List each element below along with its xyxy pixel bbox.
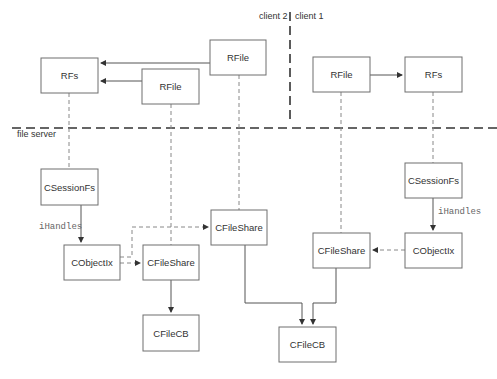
node-rfs-client1: RFs [405, 57, 462, 92]
architecture-diagram: RFs RFile RFile RFile RFs CSessionFs COb… [0, 0, 497, 379]
svg-text:CObjectIx: CObjectIx [413, 245, 455, 256]
node-rfs-left: RFs [41, 58, 98, 93]
svg-text:CFileCB: CFileCB [290, 339, 325, 350]
label-ihandles-left: iHandles [39, 222, 82, 232]
node-cobjectix-left: CObjectIx [64, 245, 120, 280]
svg-text:CSessionFs: CSessionFs [44, 182, 95, 193]
svg-text:CFileShare: CFileShare [215, 222, 263, 233]
node-cfileshare-midleft: CFileShare [143, 245, 199, 280]
node-csessionfs-left: CSessionFs [41, 169, 98, 205]
svg-text:CObjectIx: CObjectIx [71, 257, 113, 268]
label-file-server: file server [17, 129, 56, 139]
svg-text:CSessionFs: CSessionFs [408, 175, 459, 186]
node-cfileshare-center: CFileShare [211, 210, 267, 245]
node-csessionfs-right: CSessionFs [405, 163, 462, 198]
node-rfile-client1: RFile [313, 57, 370, 92]
node-cobjectix-right: CObjectIx [405, 233, 462, 268]
svg-text:RFile: RFile [227, 52, 249, 63]
label-client2: client 2 [259, 11, 288, 21]
node-cfileshare-client1: CFileShare [313, 233, 370, 268]
label-client1: client 1 [295, 11, 324, 21]
node-cfilecb-left: CFileCB [143, 315, 199, 351]
node-rfile-top: RFile [210, 40, 266, 75]
node-rfile-mid: RFile [142, 69, 199, 104]
svg-text:RFile: RFile [330, 69, 352, 80]
edge-cfileshare-center-to-cfilecb [245, 245, 302, 324]
svg-text:CFileShare: CFileShare [318, 245, 366, 256]
svg-text:RFs: RFs [425, 69, 443, 80]
label-ihandles-right: iHandles [438, 207, 481, 217]
node-cfilecb-center: CFileCB [279, 327, 336, 362]
edge-cfileshare-client1-to-cfilecb [313, 268, 336, 324]
svg-text:RFile: RFile [159, 81, 181, 92]
svg-text:RFs: RFs [61, 70, 79, 81]
svg-text:CFileShare: CFileShare [147, 257, 195, 268]
svg-text:CFileCB: CFileCB [153, 328, 188, 339]
